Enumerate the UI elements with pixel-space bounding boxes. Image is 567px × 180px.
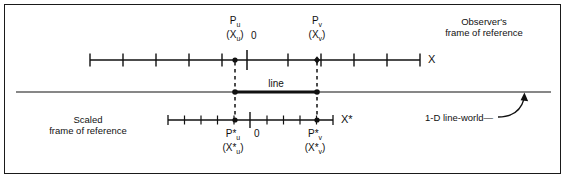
- observer-frame-line1: Observer's: [461, 16, 507, 27]
- upper-point-pv-name: Pv: [312, 15, 322, 26]
- line-segment-label: line: [268, 78, 284, 90]
- lower-point-pu-star-name: P*u: [226, 128, 240, 139]
- upper-point-pv-label: Pv (Xv): [309, 15, 326, 44]
- upper-point-pu-name: Pu: [230, 15, 241, 26]
- lower-axis-origin-label: 0: [254, 128, 260, 140]
- lower-axis-name: X*: [341, 113, 353, 126]
- line-world-arrow: [498, 99, 524, 117]
- scaled-frame-line1: Scaled: [73, 114, 102, 125]
- line-world-arrowhead: [521, 93, 529, 102]
- line-segment-endpoint-right: [314, 89, 320, 95]
- marker-point-pv: [314, 56, 320, 64]
- marker-point-pu-star: [232, 117, 237, 122]
- lower-point-pv-star-name: P*v: [308, 128, 322, 139]
- lower-point-pu-star-label: P*u (X*u): [222, 128, 243, 157]
- line-world-label: 1-D line-world—: [425, 112, 493, 123]
- upper-point-pv-coord: (Xv): [309, 29, 326, 40]
- upper-axis-name: X: [428, 53, 435, 66]
- lower-point-pv-star-label: P*v (X*v): [305, 128, 326, 157]
- scaled-frame-note: Scaled frame of reference: [49, 114, 127, 136]
- marker-point-pv-star: [314, 117, 319, 122]
- upper-axis-origin-label: 0: [251, 30, 257, 42]
- observer-frame-note: Observer's frame of reference: [445, 16, 523, 38]
- observer-frame-line2: frame of reference: [445, 27, 523, 38]
- scaled-frame-line2: frame of reference: [49, 125, 127, 136]
- marker-point-pu: [232, 57, 237, 62]
- upper-point-pu-coord: (Xu): [226, 29, 243, 40]
- line-world-text: 1-D line-world: [425, 112, 484, 123]
- line-world-leader: —: [484, 112, 494, 123]
- line-segment-endpoint-left: [232, 89, 238, 95]
- lower-point-pu-star-coord: (X*u): [222, 142, 243, 153]
- upper-point-pu-label: Pu (Xu): [226, 15, 243, 44]
- figure-root: Pu (Xu) Pv (Xv) 0 X Observer's frame of …: [0, 0, 567, 180]
- lower-point-pv-star-coord: (X*v): [305, 142, 326, 153]
